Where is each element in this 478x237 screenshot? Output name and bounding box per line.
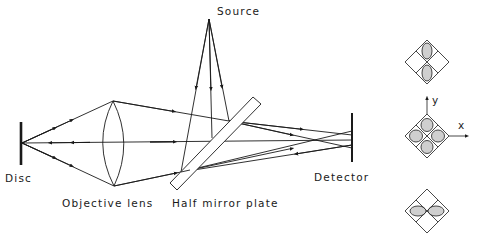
half-mirror-plate-label: Half mirror plate <box>172 197 279 209</box>
half-mirror-plate <box>170 97 261 190</box>
detector-label: Detector <box>314 171 369 183</box>
y-axis-label: y <box>432 94 439 106</box>
disc-label: Disc <box>5 172 32 184</box>
pattern-top <box>405 40 449 84</box>
pattern-bottom <box>405 189 449 233</box>
objective-lens-label: Objective lens <box>62 197 153 209</box>
x-axis-label: x <box>458 119 465 131</box>
objective-lens <box>103 101 124 186</box>
source-label: Source <box>217 5 260 17</box>
